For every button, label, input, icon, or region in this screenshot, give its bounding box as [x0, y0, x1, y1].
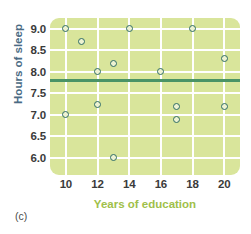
- gridline-vertical: [97, 18, 99, 175]
- gridline-horizontal: [50, 49, 240, 51]
- y-tick-label: 7.0: [2, 109, 46, 121]
- data-point: [78, 38, 85, 45]
- gridline-vertical: [160, 18, 162, 175]
- x-tick-label: 20: [209, 178, 239, 190]
- x-tick-label: 10: [51, 178, 81, 190]
- y-tick-label: 9.0: [2, 23, 46, 35]
- x-tick-label: 16: [146, 178, 176, 190]
- x-axis-title: Years of education: [50, 198, 240, 210]
- data-point: [173, 116, 180, 123]
- data-point: [173, 103, 180, 110]
- data-point: [221, 55, 228, 62]
- x-tick-label: 18: [178, 178, 208, 190]
- panel-caption: (c): [15, 210, 27, 222]
- data-point: [62, 111, 69, 118]
- data-point: [221, 103, 228, 110]
- y-axis-title: Hours of sleep: [12, 9, 24, 119]
- data-point: [94, 101, 101, 108]
- reference-line: [50, 79, 240, 82]
- data-point: [94, 68, 101, 75]
- gridline-vertical: [128, 18, 130, 175]
- y-tick-label: 8.5: [2, 44, 46, 56]
- plot-area: [50, 18, 240, 175]
- y-tick-label: 6.0: [2, 152, 46, 164]
- data-point: [157, 68, 164, 75]
- gridline-horizontal: [50, 135, 240, 137]
- data-point: [189, 25, 196, 32]
- x-tick-label: 12: [83, 178, 113, 190]
- gridline-horizontal: [50, 28, 240, 30]
- gridline-vertical: [223, 18, 225, 175]
- gridline-horizontal: [50, 92, 240, 94]
- gridline-vertical: [192, 18, 194, 175]
- y-tick-label: 8.0: [2, 66, 46, 78]
- gridline-vertical: [65, 18, 67, 175]
- gridline-horizontal: [50, 71, 240, 73]
- gridline-horizontal: [50, 157, 240, 159]
- data-point: [62, 25, 69, 32]
- y-tick-label: 6.5: [2, 130, 46, 142]
- x-axis-tick-labels: 101214161820: [50, 178, 240, 194]
- x-tick-label: 14: [114, 178, 144, 190]
- y-tick-label: 7.5: [2, 87, 46, 99]
- data-point: [126, 25, 133, 32]
- figure-panel: 9.08.58.07.57.06.56.0 101214161820 Hours…: [0, 0, 251, 234]
- data-point: [110, 154, 117, 161]
- gridline-horizontal: [50, 114, 240, 116]
- data-point: [110, 60, 117, 67]
